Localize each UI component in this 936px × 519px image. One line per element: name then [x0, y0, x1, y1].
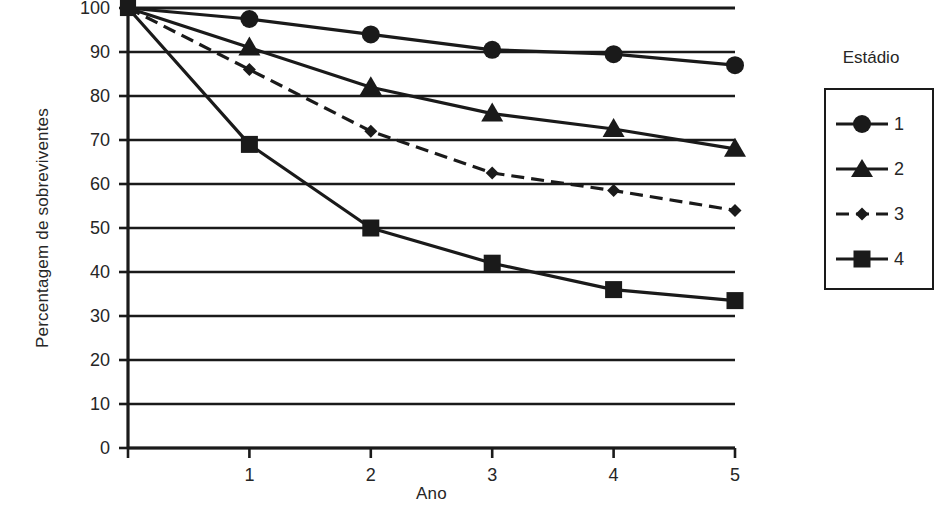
marker-circle [726, 56, 744, 74]
legend-item-2[interactable]: 2 [826, 149, 936, 189]
marker-diamond [607, 184, 620, 197]
marker-diamond [364, 125, 377, 138]
x-axis-label: Ano [128, 484, 735, 504]
y-tick-label: 70 [48, 131, 110, 149]
x-tick-label: 2 [351, 466, 391, 484]
y-tick-label: 60 [48, 175, 110, 193]
marker-circle [240, 10, 258, 28]
marker-square [362, 220, 379, 237]
marker-diamond [486, 167, 499, 180]
legend-title: Estádio [806, 48, 936, 68]
legend-item-1[interactable]: 1 [826, 104, 936, 144]
legend-label: 3 [894, 205, 904, 223]
x-tick-label: 3 [472, 466, 512, 484]
legend-box: 1234 [824, 88, 934, 290]
marker-diamond [729, 204, 742, 217]
legend-label: 4 [894, 250, 904, 268]
marker-square [727, 292, 744, 309]
y-tick-label: 50 [48, 219, 110, 237]
y-tick-label: 20 [48, 351, 110, 369]
y-tick-label: 10 [48, 395, 110, 413]
y-tick-label: 90 [48, 43, 110, 61]
marker-diamond [243, 63, 256, 76]
legend-marker-circle [834, 110, 890, 138]
legend-marker-triangle [834, 155, 890, 183]
legend-item-4[interactable]: 4 [826, 239, 936, 279]
marker-circle [483, 41, 501, 59]
legend-label: 1 [894, 115, 904, 133]
marker-square [484, 255, 501, 272]
legend-marker-square [834, 245, 890, 273]
y-tick-label: 80 [48, 87, 110, 105]
y-tick-label: 30 [48, 307, 110, 325]
marker-square [605, 281, 622, 298]
legend-label: 2 [894, 160, 904, 178]
x-tick-label: 1 [229, 466, 269, 484]
marker-square [120, 0, 136, 16]
x-tick-label: 4 [594, 466, 634, 484]
x-tick-label: 5 [715, 466, 755, 484]
marker-circle [362, 25, 380, 43]
series-line-2 [128, 8, 735, 149]
marker-square [241, 136, 258, 153]
y-tick-label: 40 [48, 263, 110, 281]
y-tick-label: 0 [48, 439, 110, 457]
legend-marker-diamond [834, 200, 890, 228]
y-tick-label: 100 [48, 0, 110, 17]
marker-circle [605, 45, 623, 63]
legend-item-3[interactable]: 3 [826, 194, 936, 234]
